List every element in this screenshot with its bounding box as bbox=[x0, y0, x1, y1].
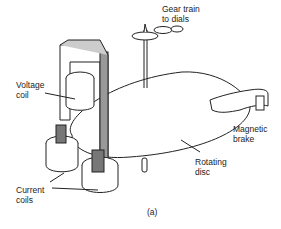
figure-caption: (a) bbox=[147, 207, 157, 217]
gear-small bbox=[171, 26, 183, 32]
label-voltage-coil: Voltage coil bbox=[16, 80, 44, 100]
rotating-disc bbox=[70, 72, 250, 158]
energy-meter-diagram: Gear train to dials Voltage coil Magneti… bbox=[0, 0, 281, 229]
label-rotating-disc: Rotating disc bbox=[195, 157, 227, 177]
label-magnetic-brake: Magnetic brake bbox=[233, 124, 268, 144]
label-current-coils: Current coils bbox=[16, 185, 44, 205]
gear-large bbox=[132, 32, 158, 40]
spindle-lower bbox=[142, 158, 147, 172]
label-gear-train: Gear train to dials bbox=[162, 4, 200, 24]
gear-medium bbox=[154, 27, 172, 34]
